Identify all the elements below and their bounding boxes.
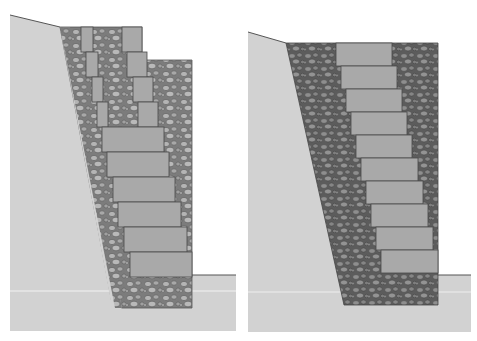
left-wall-section bbox=[0, 0, 240, 341]
right-wall-section bbox=[240, 0, 477, 341]
